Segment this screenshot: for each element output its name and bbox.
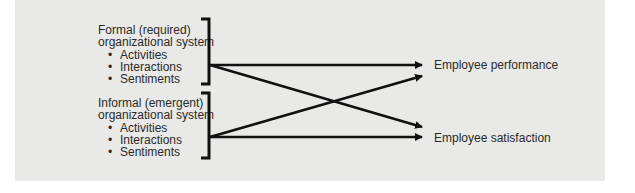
output-employee-satisfaction: Employee satisfaction: [434, 131, 551, 145]
informal-bracket-icon: [201, 93, 209, 158]
arrow-informal-to-performance: [210, 76, 422, 137]
formal-bracket-icon: [201, 19, 209, 84]
arrow-formal-to-satisfaction: [210, 65, 422, 127]
connector-arrows: [0, 0, 635, 193]
output-employee-performance: Employee performance: [434, 58, 558, 72]
